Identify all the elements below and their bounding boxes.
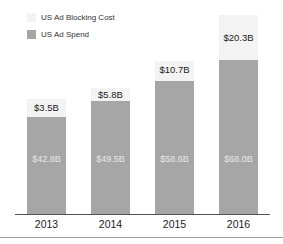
- bar-value-label: $58.6B: [155, 154, 194, 164]
- bar-value-label: $10.7B: [155, 64, 194, 75]
- x-tick-label: 2016: [219, 218, 258, 230]
- bar-segment-ad-spend: [219, 60, 258, 214]
- bar-value-label: $68.0B: [219, 154, 258, 164]
- bottom-divider: [0, 237, 283, 238]
- bar-segment-ad-spend: [155, 81, 194, 214]
- legend-swatch-blocking-cost: [27, 13, 36, 22]
- bar-value-label: $5.8B: [91, 89, 130, 100]
- x-tick-label: 2015: [155, 218, 194, 230]
- bar-value-label: $42.8B: [27, 154, 66, 164]
- legend-label: US Ad Blocking Cost: [41, 13, 115, 22]
- x-tick-label: 2013: [27, 218, 66, 230]
- legend-item-blocking-cost: US Ad Blocking Cost: [27, 12, 115, 22]
- bar-value-label: $3.5B: [27, 102, 66, 113]
- x-axis-line: [15, 214, 270, 215]
- legend-item-ad-spend: US Ad Spend: [27, 29, 89, 39]
- bar-segment-ad-spend: [27, 117, 66, 214]
- x-tick-label: 2014: [91, 218, 130, 230]
- bar-value-label: $49.5B: [91, 154, 130, 164]
- bar-value-label: $20.3B: [219, 32, 258, 43]
- legend-label: US Ad Spend: [41, 30, 89, 39]
- legend-swatch-ad-spend: [27, 30, 36, 39]
